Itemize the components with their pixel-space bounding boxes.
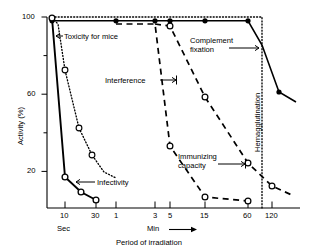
series-interference [116, 24, 251, 204]
series-immunizing-capacity [155, 23, 294, 196]
annotation-leaders [56, 33, 259, 184]
x-unit-label-min: Min [147, 224, 159, 233]
series-infectivity [49, 15, 99, 203]
x-tick-label-5: 5 [168, 211, 172, 220]
series-toxicity-for-mice [52, 18, 116, 178]
annotation-immunizing-capacity-line1: Immunizing [178, 152, 217, 161]
x-tick-label-3: 3 [153, 211, 157, 220]
annotation-complement-fixation-line1: Complement [190, 36, 233, 45]
annotation-toxicity-for-mice: Toxicity for mice [64, 32, 118, 41]
x-tick-label-10: 10 [60, 211, 68, 220]
x-tick-label-30: 30 [91, 211, 99, 220]
annotation-hemagglutination: Hemagglutination [253, 93, 262, 152]
y-tick-label-100: 100 [22, 12, 35, 21]
annotation-immunizing-capacity-line2: capacity [178, 161, 206, 170]
x-tick-label-60: 60 [243, 211, 251, 220]
y-tick-label-60: 60 [27, 89, 35, 98]
x-tick-label-120: 120 [265, 211, 278, 220]
annotation-interference: Interference [105, 76, 146, 85]
x-tick-label-1: 1 [114, 211, 118, 220]
y-axis-title: Activity (%) [16, 107, 25, 145]
y-axis-ticks [42, 17, 48, 171]
chart-figure: 100 60 20 Activity (%) 10 30 1 3 5 15 60… [0, 0, 310, 252]
annotation-infectivity: Infectivity [97, 178, 129, 187]
x-axis-title: Period of irradiation [116, 238, 182, 247]
x-unit-label-sec: Sec [57, 224, 70, 233]
annotation-complement-fixation-line2: fixation [190, 45, 214, 54]
min-unit-arrow [167, 224, 201, 234]
x-tick-label-15: 15 [200, 211, 208, 220]
y-tick-label-20: 20 [27, 166, 35, 175]
series-complement-fixation [49, 18, 296, 102]
series-hemagglutination [52, 17, 262, 208]
